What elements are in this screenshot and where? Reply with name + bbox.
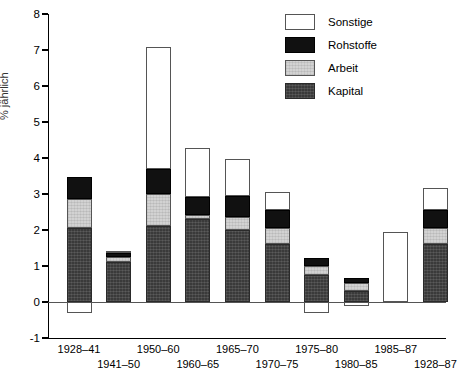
chart-legend: Sonstige Rohstoffe Arbeit Kapital: [285, 12, 445, 104]
y-tick-label: 1: [14, 261, 40, 272]
bar-segment-arbeit: [185, 215, 210, 219]
bar-segment-kapital: [67, 228, 92, 302]
y-tick-label: 4: [14, 153, 40, 164]
bar-segment-arbeit: [423, 228, 448, 244]
bar-group[interactable]: [185, 14, 210, 338]
y-tick-7: [42, 49, 48, 50]
bar-segment-kapital: [265, 244, 290, 302]
bar-segment-kapital: [185, 219, 210, 302]
bar-segment-arbeit: [265, 228, 290, 243]
bar-segment-kapital: [304, 275, 329, 302]
y-tick-label: 7: [14, 45, 40, 56]
y-tick-label: 0: [14, 297, 40, 308]
y-tick-0: [42, 301, 48, 302]
x-tick-label: 1960–65: [161, 359, 235, 370]
bar-segment-rohstoffe: [67, 177, 92, 199]
x-axis-line: [48, 338, 446, 339]
bar-segment-sonstige: [423, 188, 448, 210]
y-tick-neg1: [42, 337, 48, 338]
legend-label-arbeit: Arbeit: [328, 62, 358, 74]
bar-segment-arbeit: [106, 257, 131, 262]
bar-segment-kapital: [106, 262, 131, 302]
bar-group[interactable]: [67, 14, 92, 338]
bar-segment-sonstige: [383, 232, 408, 302]
bar-segment-kapital: [344, 291, 369, 302]
bar-segment-kapital: [423, 244, 448, 302]
legend-label-kapital: Kapital: [328, 85, 363, 97]
bar-segment-sonstige: [67, 302, 92, 313]
legend-item-kapital[interactable]: Kapital: [285, 81, 445, 100]
bar-segment-sonstige: [146, 47, 171, 169]
y-tick-5: [42, 121, 48, 122]
legend-swatch-rohstoffe-icon: [285, 37, 315, 53]
bar-segment-rohstoffe: [146, 169, 171, 194]
bar-group[interactable]: [146, 14, 171, 338]
y-tick-label: 2: [14, 225, 40, 236]
bar-segment-arbeit: [225, 217, 250, 230]
x-tick-label: 1928–87: [398, 359, 461, 370]
y-tick-6: [42, 85, 48, 86]
bar-segment-arbeit: [344, 283, 369, 291]
bar-segment-rohstoffe: [304, 258, 329, 266]
legend-swatch-sonstige-icon: [285, 14, 315, 30]
x-tick-label: 1980–85: [319, 359, 393, 370]
y-tick-label: 5: [14, 117, 40, 128]
bar-group[interactable]: [225, 14, 250, 338]
bar-segment-kapital: [225, 230, 250, 302]
bar-segment-rohstoffe: [423, 210, 448, 228]
legend-swatch-kapital-icon: [285, 83, 315, 99]
y-tick-label: -1: [14, 333, 40, 344]
y-tick-8: [42, 13, 48, 14]
x-tick-label: 1970–75: [240, 359, 314, 370]
bar-segment-arbeit: [304, 266, 329, 275]
bar-group[interactable]: [106, 14, 131, 338]
bar-segment-rohstoffe: [185, 197, 210, 215]
bar-segment-sonstige: [344, 302, 369, 306]
bar-segment-arbeit: [67, 199, 92, 228]
y-tick-2: [42, 229, 48, 230]
y-tick-3: [42, 193, 48, 194]
legend-item-arbeit[interactable]: Arbeit: [285, 58, 445, 77]
bar-segment-rohstoffe: [106, 253, 131, 257]
bar-segment-rohstoffe: [225, 196, 250, 218]
x-tick-label: 1975–80: [280, 344, 354, 355]
y-axis-title: % jährlich: [0, 72, 10, 120]
legend-item-sonstige[interactable]: Sonstige: [285, 12, 445, 31]
x-tick-label: 1965–70: [200, 344, 274, 355]
bar-segment-sonstige: [185, 148, 210, 197]
x-tick-label: 1950–60: [121, 344, 195, 355]
legend-label-sonstige: Sonstige: [328, 16, 373, 28]
y-tick-label: 6: [14, 81, 40, 92]
bar-segment-sonstige: [106, 251, 131, 253]
x-tick-label: 1941–50: [82, 359, 156, 370]
y-tick-label: 8: [14, 9, 40, 20]
bar-segment-sonstige: [304, 302, 329, 313]
legend-label-rohstoffe: Rohstoffe: [328, 39, 377, 51]
bar-segment-arbeit: [146, 194, 171, 226]
legend-item-rohstoffe[interactable]: Rohstoffe: [285, 35, 445, 54]
y-tick-1: [42, 265, 48, 266]
x-tick-label: 1928–41: [42, 344, 116, 355]
y-tick-4: [42, 157, 48, 158]
y-axis-line: [48, 14, 49, 338]
bar-segment-sonstige: [265, 192, 290, 210]
bar-segment-rohstoffe: [344, 278, 369, 283]
bar-segment-sonstige: [225, 159, 250, 196]
bar-segment-rohstoffe: [265, 210, 290, 228]
legend-swatch-arbeit-icon: [285, 60, 315, 76]
y-tick-label: 3: [14, 189, 40, 200]
bar-segment-kapital: [146, 226, 171, 302]
x-tick-label: 1985–87: [359, 344, 433, 355]
